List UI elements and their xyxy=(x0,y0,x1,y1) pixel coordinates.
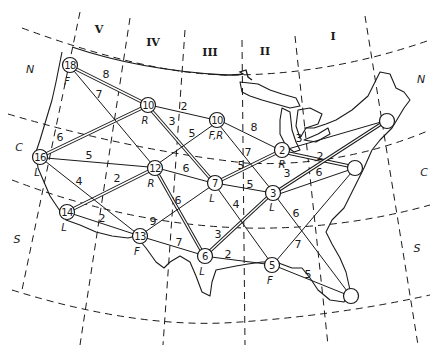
band-labels: N C S N C S xyxy=(14,63,429,255)
weight-13-7: 9 xyxy=(150,215,157,228)
us-network-map: 8 7 6 5 4 2 2 2 3 5 8 7 6 6 9 7 5 5 4 3 … xyxy=(0,0,440,353)
node-value: 2 xyxy=(279,145,285,156)
node-tag: L xyxy=(269,202,275,213)
node-5[interactable]: 5 F xyxy=(265,258,280,287)
band-label-right-c: C xyxy=(420,166,428,179)
zone-label-v: V xyxy=(94,23,104,36)
edge-weights: 8 7 6 5 4 2 2 2 3 5 8 7 6 6 9 7 5 5 4 3 … xyxy=(57,68,324,281)
node-northeast-2[interactable] xyxy=(348,161,363,176)
node-tag: R xyxy=(148,178,155,189)
node-14[interactable]: 14 L xyxy=(60,205,75,234)
zone-label-i: I xyxy=(330,30,335,43)
weight-2-ne2: 2 xyxy=(317,150,324,163)
weight-6-5: 2 xyxy=(225,248,232,261)
weight-10fr-12: 5 xyxy=(189,127,196,140)
node-value: 7 xyxy=(212,178,218,189)
node-value: 10 xyxy=(142,100,154,111)
weight-14-13: 2 xyxy=(99,212,106,225)
node-2[interactable]: 2 R xyxy=(275,143,290,171)
node-northeast-1[interactable] xyxy=(380,114,395,129)
zone-labels: V IV III II I xyxy=(94,23,336,59)
node-southeast-1[interactable] xyxy=(344,289,359,304)
weight-5-ne2: 7 xyxy=(295,238,302,251)
weight-12-7: 6 xyxy=(183,162,190,175)
canada-border xyxy=(72,47,252,80)
network-nodes: 18 F 10 R 10 F,R 16 L 12 R 7 L xyxy=(33,58,395,304)
weight-16-10r: 6 xyxy=(57,131,64,144)
weight-10r-7: 3 xyxy=(169,115,176,128)
great-lakes xyxy=(240,82,330,152)
weight-18-10r: 8 xyxy=(103,68,110,81)
node-tag: L xyxy=(61,222,67,233)
node-tag: F xyxy=(267,275,273,286)
band-label-left-c: C xyxy=(15,141,23,154)
weight-2-ne1: 3 xyxy=(296,132,303,145)
node-tag: R xyxy=(279,159,286,170)
weight-13-6: 7 xyxy=(176,236,183,249)
band-label-left-s: S xyxy=(14,233,21,246)
weight-10fr-3: 7 xyxy=(245,146,252,159)
node-value: 5 xyxy=(269,260,275,271)
band-label-right-n: N xyxy=(417,73,425,86)
node-6[interactable]: 6 L xyxy=(198,249,213,278)
node-value: 18 xyxy=(64,60,76,71)
weight-3-se1: 6 xyxy=(293,207,300,220)
node-value: 16 xyxy=(34,152,46,163)
node-value: 12 xyxy=(149,163,161,174)
node-tag: L xyxy=(209,193,215,204)
weight-5-se1: 5 xyxy=(305,268,312,281)
weight-3-ne2: 6 xyxy=(316,166,323,179)
weight-18-12: 7 xyxy=(96,88,103,101)
zone-label-iii: III xyxy=(202,46,217,59)
node-tag: F xyxy=(134,246,140,257)
weight-12-6: 6 xyxy=(175,194,182,207)
zone-label-iv: IV xyxy=(146,36,160,49)
weight-7-3: 5 xyxy=(247,178,254,191)
node-tag: R xyxy=(142,115,149,126)
zone-label-ii: II xyxy=(260,45,270,58)
node-tag: F xyxy=(64,76,70,87)
node-value: 13 xyxy=(134,231,146,242)
node-7[interactable]: 7 L xyxy=(208,176,223,205)
node-value: 14 xyxy=(61,207,73,218)
node-value: 6 xyxy=(202,251,208,262)
weight-7-2: 5 xyxy=(238,159,245,172)
node-tag: L xyxy=(34,167,40,178)
us-coastline xyxy=(36,52,410,302)
weight-16-13: 4 xyxy=(76,175,83,188)
weight-10fr-2: 8 xyxy=(251,121,258,134)
band-label-left-n: N xyxy=(26,63,34,76)
weight-14-12: 2 xyxy=(114,172,121,185)
node-tag: F,R xyxy=(209,130,224,141)
weight-16-12: 5 xyxy=(86,149,93,162)
weight-6-3: 3 xyxy=(215,228,222,241)
node-tag: L xyxy=(199,266,205,277)
node-value: 10 xyxy=(211,115,223,126)
weight-7-5: 4 xyxy=(233,198,240,211)
weight-10r-10fr: 2 xyxy=(181,100,188,113)
node-13[interactable]: 13 F xyxy=(133,229,148,258)
band-label-right-s: S xyxy=(414,242,421,255)
node-value: 3 xyxy=(270,188,276,199)
